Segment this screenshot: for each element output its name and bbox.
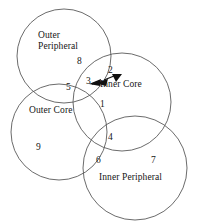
circle-outer-peripheral bbox=[17, 9, 111, 103]
region-number-1: 1 bbox=[100, 99, 105, 110]
circle-inner-peripheral bbox=[83, 116, 187, 220]
label-outer-core: Outer Core bbox=[29, 105, 72, 116]
region-number-8: 8 bbox=[77, 56, 82, 67]
region-number-7: 7 bbox=[151, 155, 156, 166]
region-number-2: 2 bbox=[108, 65, 113, 76]
label-outer-peripheral: Outer Peripheral bbox=[38, 30, 78, 51]
circle-outer-core bbox=[11, 84, 107, 180]
label-outer-peripheral-line1: Outer bbox=[38, 30, 78, 41]
region-number-4: 4 bbox=[108, 132, 113, 143]
label-inner-peripheral: Inner Peripheral bbox=[99, 172, 162, 183]
region-number-9: 9 bbox=[36, 142, 41, 153]
region-number-3: 3 bbox=[86, 76, 91, 87]
venn-diagram: Outer Peripheral Outer Core Inner Core I… bbox=[0, 0, 197, 223]
label-outer-peripheral-line2: Peripheral bbox=[38, 41, 78, 52]
circle-inner-core bbox=[73, 53, 171, 151]
label-inner-core: Inner Core bbox=[100, 79, 142, 90]
region-number-5: 5 bbox=[66, 82, 71, 93]
region-number-6: 6 bbox=[96, 155, 101, 166]
